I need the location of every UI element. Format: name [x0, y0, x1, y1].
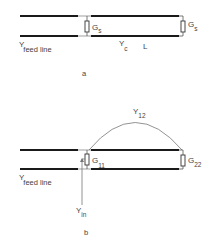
label-feed-line-b: Yfeed line: [19, 173, 52, 187]
label-yc: Yc: [119, 39, 128, 52]
label-yin: Yin: [76, 206, 87, 218]
label-feed-line-a: Yfeed line: [19, 40, 52, 54]
label-length: L: [143, 42, 148, 51]
label-g11: G11: [92, 156, 105, 169]
resistor-g11: [78, 150, 91, 169]
caption-b: b: [84, 228, 88, 237]
diagram-b: Y12 G11 G22 Yfeed line Yin b: [19, 107, 202, 237]
resistor-g22: [179, 150, 185, 169]
label-gs-left: Gs: [92, 23, 102, 34]
diagram-a: Gs Gs Yfeed line Yc L a: [19, 16, 198, 78]
mutual-coupling-arc: [89, 123, 182, 151]
label-y12: Y12: [133, 107, 146, 119]
label-gs-right: Gs: [188, 20, 198, 32]
transmission-line-diagram: Gs Gs Yfeed line Yc L a: [0, 0, 219, 246]
resistor-gs-right: [179, 16, 185, 36]
resistor-gs-left: [78, 16, 91, 36]
label-g22: G22: [188, 156, 202, 168]
input-admittance-pointer: [80, 158, 85, 205]
caption-a: a: [82, 69, 87, 78]
